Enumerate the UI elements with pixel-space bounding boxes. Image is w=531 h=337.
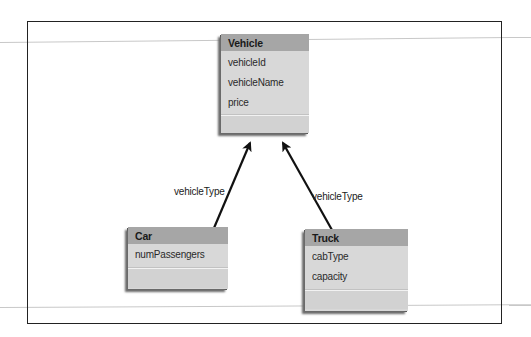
entity-truck-title: Truck (305, 229, 408, 246)
entity-car-operations (128, 269, 228, 288)
truck-to-vehicle-arrow (283, 143, 332, 230)
entity-vehicle-operations (221, 116, 309, 133)
entity-vehicle-attributes: vehicleId vehicleName price (221, 51, 309, 113)
entity-car[interactable]: Car numPassengers (128, 227, 228, 289)
attribute-cabType: cabType (305, 247, 408, 267)
relationship-label-car: vehicleType (174, 186, 225, 197)
entity-vehicle-title: Vehicle (221, 34, 309, 51)
entity-car-attributes: numPassengers (128, 244, 228, 265)
relationship-label-truck: vehicleType (312, 191, 363, 202)
attribute-numPassengers: numPassengers (128, 245, 228, 265)
entity-truck-attributes: cabType capacity (305, 246, 408, 287)
attribute-price: price (221, 93, 309, 113)
attribute-vehicleName: vehicleName (221, 73, 309, 93)
attribute-vehicleId: vehicleId (221, 53, 309, 73)
entity-truck-operations (305, 291, 408, 309)
attribute-capacity: capacity (305, 267, 408, 287)
entity-truck[interactable]: Truck cabType capacity (305, 229, 408, 311)
entity-vehicle[interactable]: Vehicle vehicleId vehicleName price (221, 34, 309, 133)
entity-car-title: Car (128, 227, 228, 244)
